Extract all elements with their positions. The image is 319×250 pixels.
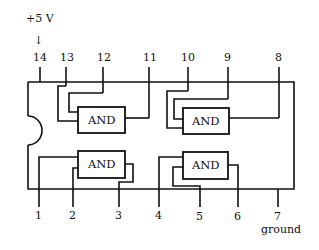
supply-arrow-icon: ↓ [34,34,43,47]
ground-label: ground [261,223,301,236]
pin-6-label: 6 [234,210,241,223]
chip-notch [28,116,42,145]
pin-14-label: 14 [33,51,47,64]
and-gate-4: AND [159,152,238,207]
pin-8-label: 8 [275,51,282,64]
and-gate-1: AND [58,86,149,133]
pin-3-label: 3 [115,209,122,222]
gate-3-label: AND [87,157,116,171]
ic-pinout-diagram: +5 V ↓ 14 13 12 11 10 9 8 AND AND [0,0,319,250]
pin-1-label: 1 [35,209,42,222]
chip-body [28,82,294,189]
pin-9-label: 9 [224,51,231,64]
supply-label: +5 V [26,12,55,25]
pin-4-label: 4 [155,209,162,222]
gate-2-label: AND [191,114,220,128]
pin-10-label: 10 [181,51,195,64]
pin-7-label: 7 [274,210,281,223]
pin-5-label: 5 [196,210,203,223]
pin-11-label: 11 [143,51,157,64]
pin-12-label: 12 [97,51,111,64]
and-gate-3: AND [39,151,133,207]
gate-4-label: AND [191,158,220,172]
gate-1-label: AND [87,113,116,127]
and-gate-2: AND [167,91,279,134]
pin-2-label: 2 [69,209,76,222]
pin-13-label: 13 [60,51,74,64]
